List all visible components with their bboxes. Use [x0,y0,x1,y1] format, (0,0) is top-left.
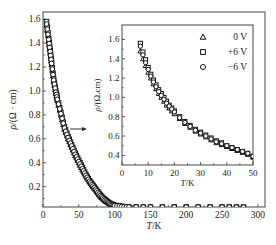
circle-marker [148,205,153,210]
circle-marker [225,144,229,148]
circle-marker [44,22,49,27]
circle-marker [214,140,218,144]
x-tick-label: 200 [179,210,194,220]
circle-marker [143,60,147,64]
circle-marker [146,67,150,71]
x-axis-label: T/K [180,178,195,188]
circle-marker [230,145,234,149]
circle-marker [49,61,54,66]
x-tick-label: 10 [144,168,154,178]
y-tick-label: 1.6 [29,14,41,24]
circle-marker [209,137,213,141]
circle-marker [196,205,201,210]
y-tick-label: 0.8 [29,110,41,120]
circle-marker [154,85,158,89]
circle-marker [200,64,205,69]
x-tick-label: 20 [170,168,180,178]
circle-marker [56,102,61,107]
circle-marker [151,80,155,84]
x-axis-label: T/K [147,221,162,231]
square-marker [201,50,206,55]
legend-label: −6 V [228,62,247,72]
circle-marker [208,205,213,210]
circle-marker [198,131,202,135]
legend-label: +6 V [228,47,247,57]
chart-canvas: 0501001502002503000.20.40.60.81.01.21.41… [0,0,276,245]
x-tick-label: 300 [251,210,266,220]
y-tick-label: 0.6 [29,134,41,144]
circle-marker [172,205,177,210]
circle-marker [227,205,232,210]
y-tick-label: 1.2 [108,73,119,83]
x-tick-label: 50 [249,168,259,178]
resistivity-figure: 0501001502002503000.20.40.60.81.01.21.41… [0,0,276,245]
circle-marker [193,128,197,132]
circle-marker [241,205,246,210]
circle-marker [220,205,225,210]
circle-marker [177,116,181,120]
circle-marker [246,151,250,155]
y-tick-label: 1.4 [29,38,41,48]
circle-marker [50,67,55,72]
circle-marker [57,107,62,112]
y-tick-label: 1.4 [108,54,120,64]
y-tick-label: 1.0 [29,86,41,96]
circle-marker [141,53,145,57]
x-tick-label: 250 [215,210,230,220]
circle-marker [204,134,208,138]
x-tick-label: 50 [74,210,84,220]
circle-marker [59,111,64,116]
circle-marker [219,142,223,146]
circle-marker [183,120,187,124]
y-axis-label: ρ/(Ω.cm) [92,79,102,113]
circle-marker [149,74,153,78]
x-tick-label: 0 [41,210,46,220]
circle-marker [160,205,165,210]
circle-marker [240,149,244,153]
y-tick-label: 0.4 [108,150,120,160]
x-tick-label: 0 [120,168,125,178]
circle-marker [46,32,51,37]
x-tick-label: 100 [107,210,122,220]
circle-marker [188,124,192,128]
circle-marker [61,121,66,126]
x-tick-label: 40 [222,168,232,178]
circle-marker [138,44,142,48]
circle-marker [234,205,239,210]
y-tick-label: 1.2 [29,62,41,72]
circle-marker [172,110,176,114]
x-tick-label: 30 [196,168,206,178]
y-tick-label: 0.4 [29,158,41,168]
circle-marker [60,116,65,121]
circle-marker [55,97,60,102]
circle-marker [184,205,189,210]
y-axis-label: ρ/(Ω · cm) [8,89,19,130]
circle-marker [51,72,56,77]
y-tick-label: 1.6 [108,34,120,44]
x-tick-label: 150 [143,210,158,220]
circle-marker [235,147,239,151]
y-tick-label: 1.0 [108,92,120,102]
circle-marker [127,205,132,210]
circle-marker [45,27,50,32]
y-tick-label: 0.8 [108,112,120,122]
y-tick-label: 0.2 [29,182,41,192]
legend-label: 0 V [233,32,247,42]
y-tick-label: 0.6 [108,131,120,141]
circle-marker [141,205,146,210]
circle-marker [134,205,139,210]
